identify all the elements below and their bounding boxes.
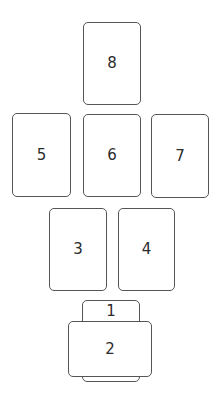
- card-2: 2: [68, 321, 152, 377]
- card-8: 8: [83, 22, 141, 105]
- card-8-label: 8: [107, 56, 117, 71]
- card-5: 5: [12, 113, 71, 197]
- card-1-label: 1: [83, 304, 139, 319]
- card-3: 3: [49, 208, 107, 291]
- card-4-label: 4: [142, 242, 152, 257]
- card-3-label: 3: [73, 242, 83, 257]
- card-6-label: 6: [107, 148, 117, 163]
- card-2-label: 2: [105, 342, 115, 357]
- card-4: 4: [118, 208, 175, 291]
- card-7: 7: [151, 114, 209, 198]
- card-7-label: 7: [175, 149, 185, 164]
- card-5-label: 5: [37, 148, 47, 163]
- card-6: 6: [83, 114, 141, 197]
